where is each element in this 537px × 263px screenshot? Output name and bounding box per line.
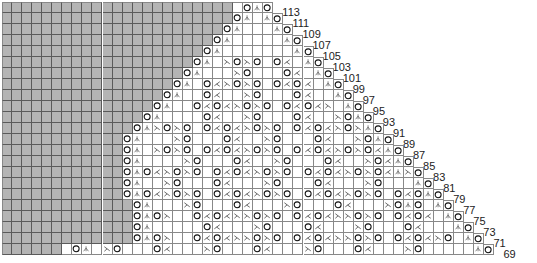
ssk-icon	[163, 211, 173, 222]
yarn-over-icon	[404, 156, 414, 167]
gray-no-stitch-cell	[42, 90, 52, 101]
gray-no-stitch-cell	[82, 112, 92, 123]
knit-cell	[173, 101, 183, 112]
yarn-over-icon	[394, 189, 404, 200]
yarn-over-icon	[273, 57, 283, 68]
gray-no-stitch-cell	[2, 167, 12, 178]
double-decrease-icon	[354, 112, 364, 123]
gray-no-stitch-cell	[62, 156, 72, 167]
gray-no-stitch-cell	[42, 24, 52, 35]
yarn-over-icon	[153, 211, 163, 222]
yarn-over-icon	[374, 211, 384, 222]
knit-cell	[253, 178, 263, 189]
yarn-over-icon	[213, 244, 223, 255]
gray-no-stitch-cell	[92, 211, 102, 222]
knit-cell	[193, 134, 203, 145]
knit-cell	[223, 200, 233, 211]
ssk-icon	[263, 145, 273, 156]
k2tog-icon	[384, 167, 394, 178]
knit-cell	[273, 101, 283, 112]
ssk-icon	[334, 233, 344, 244]
gray-no-stitch-cell	[143, 57, 153, 68]
knit-cell	[374, 200, 384, 211]
yarn-over-icon	[223, 145, 233, 156]
double-decrease-icon	[253, 2, 263, 13]
gray-no-stitch-cell	[72, 200, 82, 211]
knit-cell	[273, 68, 283, 79]
yarn-over-icon	[304, 101, 314, 112]
gray-no-stitch-cell	[52, 145, 62, 156]
gray-no-stitch-cell	[62, 35, 72, 46]
yarn-over-icon	[253, 123, 263, 134]
double-decrease-icon	[143, 211, 153, 222]
gray-no-stitch-cell	[113, 178, 123, 189]
ssk-icon	[273, 189, 283, 200]
gray-no-stitch-cell	[42, 200, 52, 211]
gray-no-stitch-cell	[2, 145, 12, 156]
knit-cell	[324, 90, 334, 101]
yarn-over-icon	[304, 167, 314, 178]
gray-no-stitch-cell	[2, 2, 12, 13]
gray-no-stitch-cell	[52, 211, 62, 222]
knit-cell	[233, 90, 243, 101]
gray-no-stitch-cell	[22, 112, 32, 123]
gray-no-stitch-cell	[163, 2, 173, 13]
gray-no-stitch-cell	[92, 123, 102, 134]
gray-no-stitch-cell	[103, 134, 113, 145]
yarn-over-icon	[233, 57, 243, 68]
yarn-over-icon	[273, 13, 283, 24]
gray-no-stitch-cell	[12, 123, 22, 134]
yarn-over-icon	[273, 211, 283, 222]
gray-no-stitch-cell	[143, 79, 153, 90]
yarn-over-icon	[314, 57, 324, 68]
ssk-icon	[163, 189, 173, 200]
yarn-over-icon	[394, 145, 404, 156]
k2tog-icon	[223, 101, 233, 112]
knit-cell	[203, 167, 213, 178]
gray-no-stitch-cell	[2, 101, 12, 112]
yarn-over-icon	[123, 189, 133, 200]
ssk-icon	[153, 145, 163, 156]
gray-no-stitch-cell	[113, 189, 123, 200]
gray-no-stitch-cell	[32, 156, 42, 167]
knit-cell	[404, 178, 414, 189]
knit-cell	[283, 178, 293, 189]
yarn-over-icon	[193, 233, 203, 244]
yarn-over-icon	[354, 167, 364, 178]
gray-no-stitch-cell	[203, 24, 213, 35]
k2tog-icon	[233, 134, 243, 145]
k2tog-icon	[153, 167, 163, 178]
gray-no-stitch-cell	[62, 79, 72, 90]
gray-no-stitch-cell	[42, 68, 52, 79]
gray-no-stitch-cell	[32, 189, 42, 200]
yarn-over-icon	[414, 167, 424, 178]
yarn-over-icon	[283, 167, 293, 178]
gray-no-stitch-cell	[2, 35, 12, 46]
knit-cell	[183, 112, 193, 123]
gray-no-stitch-cell	[22, 178, 32, 189]
knit-cell	[273, 90, 283, 101]
knit-cell	[344, 222, 354, 233]
gray-no-stitch-cell	[32, 24, 42, 35]
gray-no-stitch-cell	[22, 57, 32, 68]
knit-cell	[223, 156, 233, 167]
gray-no-stitch-cell	[42, 101, 52, 112]
yarn-over-icon	[253, 244, 263, 255]
k2tog-icon	[223, 189, 233, 200]
double-decrease-icon	[404, 200, 414, 211]
gray-no-stitch-cell	[32, 134, 42, 145]
yarn-over-icon	[253, 145, 263, 156]
knit-cell	[334, 101, 344, 112]
yarn-over-icon	[293, 90, 303, 101]
gray-no-stitch-cell	[92, 222, 102, 233]
knit-cell	[163, 134, 173, 145]
knit-cell	[193, 112, 203, 123]
gray-no-stitch-cell	[82, 178, 92, 189]
gray-no-stitch-cell	[123, 68, 133, 79]
knit-cell	[454, 244, 464, 255]
k2tog-icon	[283, 79, 293, 90]
gray-no-stitch-cell	[32, 244, 42, 255]
gray-no-stitch-cell	[193, 46, 203, 57]
k2tog-icon	[304, 112, 314, 123]
double-decrease-icon	[293, 46, 303, 57]
